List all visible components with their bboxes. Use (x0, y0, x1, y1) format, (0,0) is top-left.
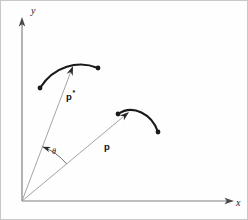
axes-group: y x (19, 5, 241, 208)
vector-label-p-star: p (66, 91, 72, 102)
upper-curve-end-dot (96, 66, 101, 71)
vector-p-star-shaft (22, 72, 71, 201)
x-axis-label: x (235, 197, 241, 208)
vector-label-p-star-asterisk: * (73, 89, 76, 96)
upper-curve-start-dot (38, 86, 43, 91)
lower-curve-end-dot (156, 130, 161, 135)
vector-p-shaft (22, 116, 124, 201)
figure-canvas: y x θ (0, 0, 248, 220)
vector-diagram-figure: y x θ (0, 0, 248, 220)
vector-p-star-group (22, 66, 73, 201)
vector-p-group (22, 112, 129, 201)
lower-curve-group (116, 110, 161, 134)
lower-curve-start-dot (116, 112, 121, 117)
theta-angle-group: θ (43, 147, 67, 164)
lower-curve (118, 110, 158, 132)
theta-label: θ (52, 147, 56, 156)
vector-labels-group: p * p (66, 89, 110, 152)
y-axis-label: y (30, 5, 36, 16)
vector-label-p: p (104, 141, 110, 152)
theta-arc-arrowhead (43, 147, 51, 152)
